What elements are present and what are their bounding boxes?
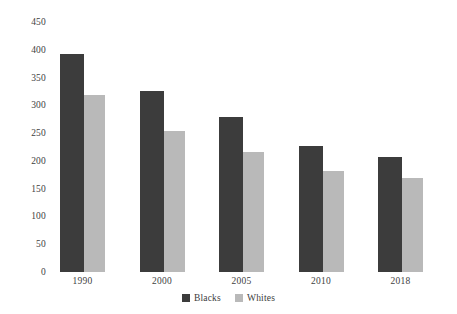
x-axis-tick-2010: 2010 [291,276,351,287]
x-axis-tick-2005: 2005 [212,276,272,287]
x-axis-tick-2000: 2000 [132,276,192,287]
bar-chart: 450400350300250200150100500 199020002005… [0,0,457,314]
legend-swatch-whites-icon [235,294,243,302]
legend-swatch-blacks-icon [182,294,190,302]
legend-label: Blacks [194,293,221,303]
x-axis: 19902000200520102018 [0,0,457,314]
x-axis-tick-2018: 2018 [371,276,431,287]
x-axis-tick-1990: 1990 [53,276,113,287]
legend-label: Whites [247,293,275,303]
chart-legend: BlacksWhites [0,293,457,303]
legend-item-blacks[interactable]: Blacks [182,293,221,303]
legend-item-whites[interactable]: Whites [235,293,275,303]
